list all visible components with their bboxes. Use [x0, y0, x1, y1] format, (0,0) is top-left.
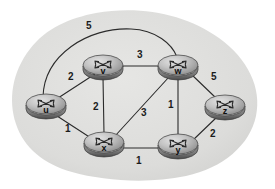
node-label-x: x: [101, 143, 106, 153]
edge-weight-u-x: 1: [65, 123, 71, 134]
node-x[interactable]: x: [84, 132, 124, 157]
node-label-z: z: [223, 106, 228, 116]
edge-weight-y-z: 2: [210, 128, 216, 139]
node-v[interactable]: v: [83, 55, 123, 80]
node-z[interactable]: z: [205, 95, 245, 120]
edge-weight-u-v: 2: [68, 71, 74, 82]
node-w[interactable]: w: [158, 55, 198, 80]
graph-canvas: 5 2 1 3 2 3 1 1 5 2 u v: [0, 0, 275, 189]
edge-weight-w-z: 5: [211, 71, 217, 82]
node-u[interactable]: u: [26, 94, 66, 119]
node-y[interactable]: y: [158, 134, 198, 159]
node-label-y: y: [175, 145, 180, 155]
edge-weight-v-w: 3: [137, 49, 143, 60]
node-label-v: v: [100, 66, 105, 76]
edge-weight-x-w: 3: [141, 107, 147, 118]
network-graph-figure: 5 2 1 3 2 3 1 1 5 2 u v: [0, 0, 275, 189]
edge-weight-v-x: 2: [93, 101, 99, 112]
edge-weight-x-y: 1: [136, 155, 142, 166]
edge-weight-u-w: 5: [86, 20, 92, 31]
node-label-u: u: [43, 105, 49, 115]
node-label-w: w: [173, 66, 182, 76]
edge-weight-w-y: 1: [168, 99, 174, 110]
